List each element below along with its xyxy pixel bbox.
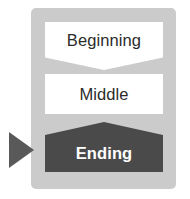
step-beginning[interactable]: Beginning: [45, 22, 163, 70]
step-beginning-label: Beginning: [67, 32, 141, 49]
diagram-canvas: Beginning Middle Ending: [0, 0, 190, 199]
step-middle-label: Middle: [79, 86, 128, 103]
step-ending[interactable]: Ending: [45, 122, 163, 172]
step-ending-label: Ending: [76, 145, 133, 162]
step-list: Beginning Middle Ending: [45, 22, 163, 172]
triangle-right-icon: [9, 132, 34, 168]
step-middle[interactable]: Middle: [45, 74, 163, 114]
